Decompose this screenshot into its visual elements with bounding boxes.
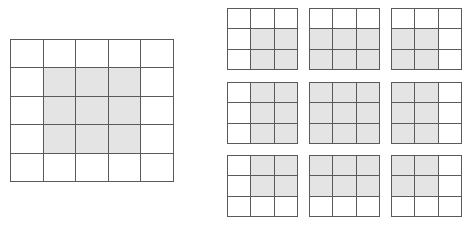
empty-cell: [141, 40, 174, 68]
shaded-cell: [76, 97, 109, 125]
sub-grid-3: [391, 8, 462, 70]
shaded-cell: [357, 83, 380, 103]
empty-cell: [141, 97, 174, 125]
shaded-cell: [333, 29, 356, 49]
empty-cell: [251, 197, 274, 217]
empty-cell: [228, 176, 251, 196]
shaded-cell: [333, 156, 356, 176]
shaded-cell: [310, 103, 333, 123]
shaded-cell: [415, 29, 438, 49]
empty-cell: [11, 154, 44, 182]
sub-grid-9: [391, 155, 462, 217]
shaded-cell: [310, 29, 333, 49]
empty-cell: [228, 29, 251, 49]
shaded-cell: [310, 124, 333, 144]
shaded-cell: [392, 50, 415, 70]
empty-cell: [415, 9, 438, 29]
sub-grid-6: [391, 82, 462, 144]
shaded-cell: [275, 29, 298, 49]
shaded-cell: [76, 125, 109, 153]
empty-cell: [76, 154, 109, 182]
shaded-cell: [310, 156, 333, 176]
shaded-cell: [415, 176, 438, 196]
empty-cell: [439, 124, 462, 144]
shaded-cell: [333, 176, 356, 196]
shaded-cell: [357, 103, 380, 123]
shaded-cell: [251, 156, 274, 176]
empty-cell: [333, 197, 356, 217]
empty-cell: [44, 40, 77, 68]
empty-cell: [11, 40, 44, 68]
empty-cell: [310, 9, 333, 29]
shaded-cell: [109, 68, 142, 96]
empty-cell: [439, 103, 462, 123]
empty-cell: [439, 83, 462, 103]
empty-cell: [275, 197, 298, 217]
empty-cell: [333, 9, 356, 29]
empty-cell: [251, 9, 274, 29]
shaded-cell: [310, 83, 333, 103]
empty-cell: [439, 50, 462, 70]
empty-cell: [76, 40, 109, 68]
shaded-cell: [251, 176, 274, 196]
shaded-cell: [357, 29, 380, 49]
shaded-cell: [392, 176, 415, 196]
empty-cell: [392, 9, 415, 29]
shaded-cell: [333, 103, 356, 123]
empty-cell: [141, 68, 174, 96]
shaded-cell: [275, 156, 298, 176]
shaded-cell: [333, 50, 356, 70]
empty-cell: [439, 29, 462, 49]
empty-cell: [109, 40, 142, 68]
shaded-cell: [275, 124, 298, 144]
shaded-cell: [415, 83, 438, 103]
empty-cell: [228, 156, 251, 176]
shaded-cell: [275, 176, 298, 196]
empty-cell: [228, 124, 251, 144]
shaded-cell: [44, 68, 77, 96]
sub-grid-2: [309, 8, 380, 70]
empty-cell: [109, 154, 142, 182]
empty-cell: [11, 125, 44, 153]
main-grid: [10, 39, 174, 182]
empty-cell: [228, 197, 251, 217]
sub-grid-7: [227, 155, 298, 217]
shaded-cell: [415, 103, 438, 123]
empty-cell: [11, 68, 44, 96]
shaded-cell: [415, 156, 438, 176]
empty-cell: [228, 50, 251, 70]
shaded-cell: [415, 124, 438, 144]
shaded-cell: [251, 50, 274, 70]
shaded-cell: [44, 125, 77, 153]
shaded-cell: [392, 103, 415, 123]
shaded-cell: [251, 124, 274, 144]
shaded-cell: [357, 156, 380, 176]
empty-cell: [310, 197, 333, 217]
shaded-cell: [333, 83, 356, 103]
empty-cell: [44, 154, 77, 182]
shaded-cell: [251, 103, 274, 123]
sub-grid-4: [227, 82, 298, 144]
empty-cell: [439, 176, 462, 196]
shaded-cell: [392, 156, 415, 176]
shaded-cell: [310, 176, 333, 196]
shaded-cell: [275, 50, 298, 70]
empty-cell: [228, 9, 251, 29]
shaded-cell: [275, 103, 298, 123]
shaded-cell: [76, 68, 109, 96]
shaded-cell: [109, 125, 142, 153]
empty-cell: [228, 83, 251, 103]
shaded-cell: [310, 50, 333, 70]
empty-cell: [439, 9, 462, 29]
shaded-cell: [392, 29, 415, 49]
empty-cell: [11, 97, 44, 125]
empty-cell: [275, 9, 298, 29]
shaded-cell: [415, 50, 438, 70]
empty-cell: [357, 197, 380, 217]
shaded-cell: [251, 29, 274, 49]
empty-cell: [228, 103, 251, 123]
empty-cell: [141, 125, 174, 153]
empty-cell: [141, 154, 174, 182]
shaded-cell: [357, 176, 380, 196]
empty-cell: [439, 156, 462, 176]
